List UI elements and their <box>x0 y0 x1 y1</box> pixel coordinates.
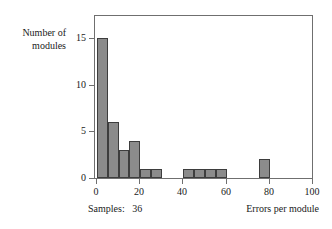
plot-area <box>95 16 312 178</box>
histogram-bar <box>151 169 162 178</box>
histogram-bar <box>129 141 140 178</box>
histogram-bar <box>97 38 108 178</box>
x-tick-label: 0 <box>81 187 111 197</box>
x-tick-label: 20 <box>124 187 154 197</box>
x-tick-label: 60 <box>211 187 241 197</box>
histogram-bar <box>183 169 194 178</box>
chart-figure: Number of modules 051015 020406080100 Sa… <box>0 0 332 229</box>
x-tick-label: 80 <box>254 187 284 197</box>
plot-frame <box>94 15 313 179</box>
x-tick-mark <box>139 179 140 184</box>
y-tick-label: 15 <box>60 33 86 43</box>
histogram-bar <box>119 150 130 178</box>
samples-caption: Samples: 36 <box>88 203 142 215</box>
y-tick-label: 5 <box>60 126 86 136</box>
x-tick-label: 40 <box>167 187 197 197</box>
y-tick-label: 0 <box>60 173 86 183</box>
histogram-bar <box>108 122 119 178</box>
histogram-bar <box>216 169 227 178</box>
x-tick-mark <box>269 179 270 184</box>
histogram-bar <box>194 169 205 178</box>
histogram-bar <box>259 159 270 178</box>
x-tick-mark <box>226 179 227 184</box>
x-tick-mark <box>312 179 313 184</box>
y-tick-label: 10 <box>60 80 86 90</box>
histogram-bar <box>140 169 151 178</box>
histogram-bar <box>205 169 216 178</box>
x-tick-mark <box>182 179 183 184</box>
x-tick-label: 100 <box>297 187 327 197</box>
y-axis-title: Number of modules <box>4 26 66 52</box>
y-axis-title-line-1: Number of <box>4 26 66 39</box>
x-axis-title: Errors per module <box>246 203 319 215</box>
y-axis-title-line-2: modules <box>4 39 66 52</box>
x-tick-mark <box>96 179 97 184</box>
